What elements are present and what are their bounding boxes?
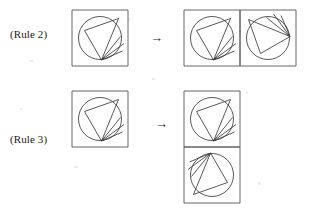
triangle [197, 100, 231, 142]
rule-2-label: (Rule 2) [10, 28, 47, 40]
inscribed-circle [79, 17, 122, 60]
inscribed-circle [191, 17, 234, 60]
inscribed-circle [79, 98, 122, 141]
paper-speck [246, 92, 248, 94]
triangle [197, 19, 231, 61]
triangle [85, 19, 119, 61]
rule-2-result-figure [183, 9, 297, 67]
paper-speck [74, 166, 78, 168]
motif-tile [71, 90, 129, 148]
paper-speck [258, 182, 261, 185]
horizontal-pair [183, 9, 297, 67]
rule-2-arrow-icon: → [150, 31, 163, 44]
diagram-canvas: (Rule 2) → [0, 0, 312, 212]
inscribed-circle [191, 98, 234, 141]
motif-tile [71, 9, 129, 67]
paper-speck [152, 78, 155, 80]
rule-3-arrow-icon: → [155, 117, 168, 130]
paper-speck [30, 60, 33, 62]
vertical-pair [183, 90, 241, 204]
triangle [85, 100, 119, 142]
paper-speck [20, 108, 22, 110]
rule-3-label: (Rule 3) [10, 133, 47, 145]
inscribed-circle [247, 17, 290, 60]
inscribed-circle [191, 154, 234, 197]
rule-2-source-figure [71, 9, 129, 67]
rule-3-result-figure [183, 90, 241, 204]
triangle [249, 20, 291, 54]
rule-3-source-figure [71, 90, 129, 148]
triangle [194, 153, 228, 195]
